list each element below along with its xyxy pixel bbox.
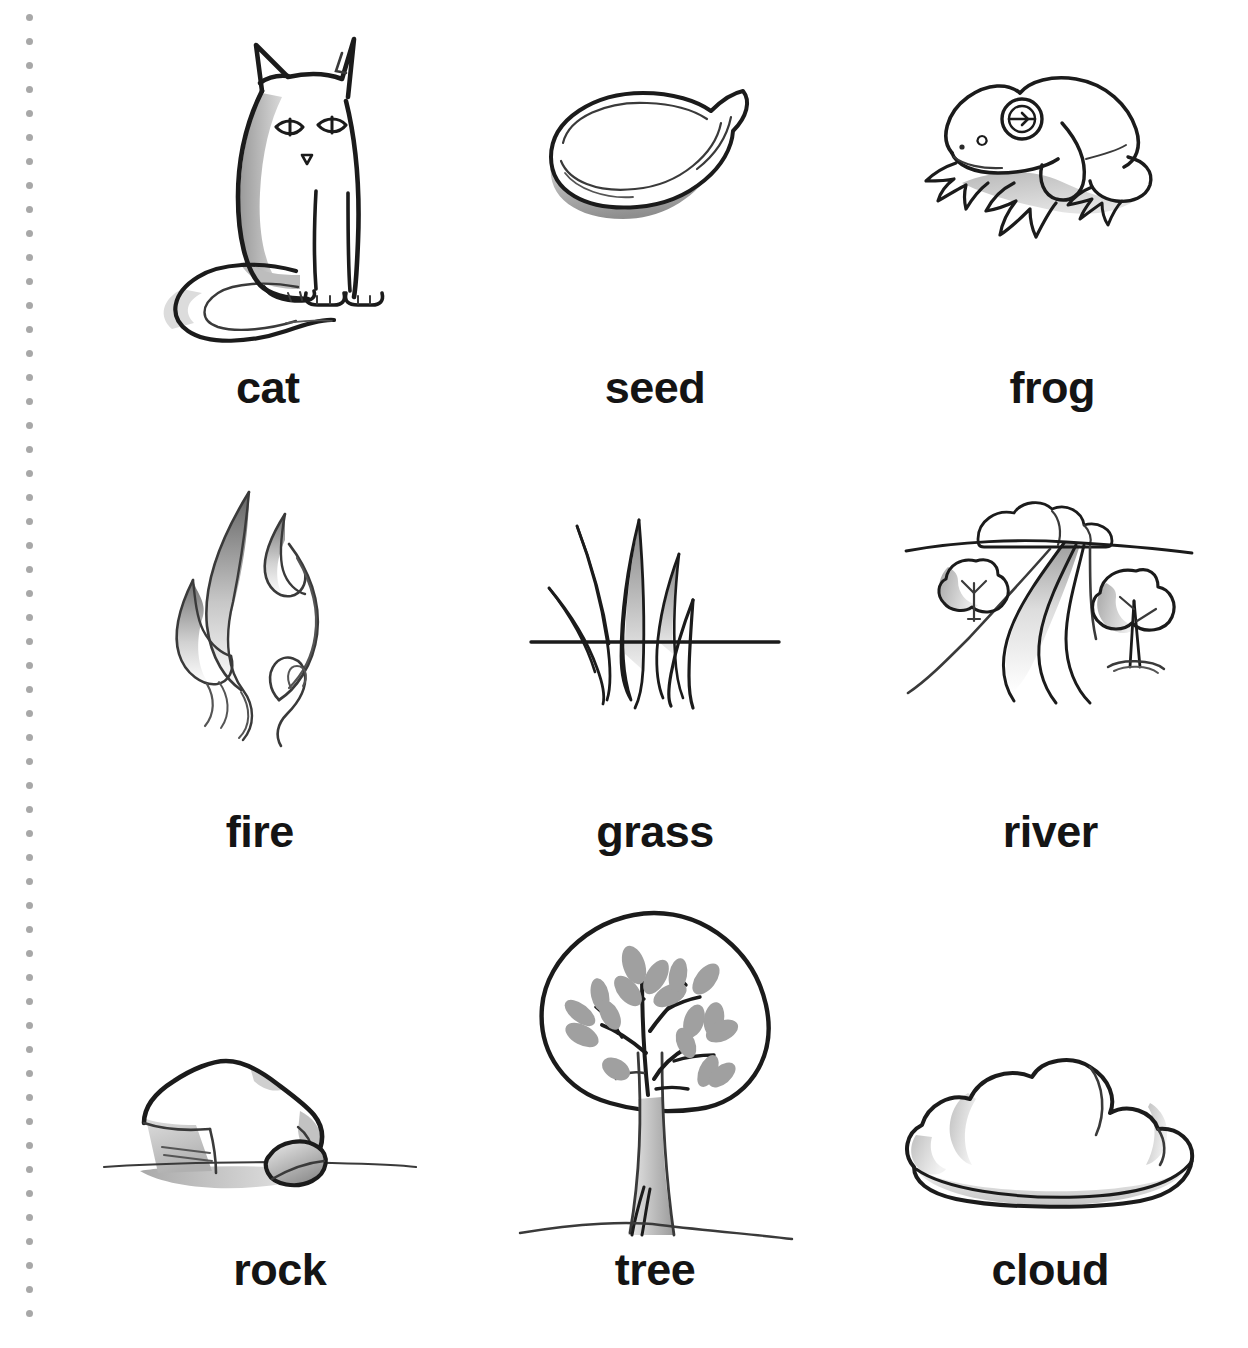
margin-dot [26,590,33,597]
card-label-fire: fire [226,809,294,854]
grass-illustration [457,452,852,805]
margin-dot [26,1166,33,1173]
fire-illustration [62,452,457,805]
margin-dot [26,14,33,21]
margin-dot [26,182,33,189]
card-label-tree: tree [615,1247,696,1292]
margin-dot [26,830,33,837]
margin-dot [26,158,33,165]
margin-dot [26,1190,33,1197]
margin-dot [26,206,33,213]
margin-dot [26,422,33,429]
margin-dot [26,974,33,981]
card-frog[interactable]: frog [853,0,1248,452]
margin-dot [26,494,33,501]
seed-illustration [457,0,852,361]
margin-dot [26,1310,33,1317]
rock-illustration [62,900,457,1243]
margin-dot [26,662,33,669]
picture-word-grid: cat [62,0,1248,1348]
tree-illustration [457,900,852,1243]
margin-dot [26,110,33,117]
card-label-river: river [1003,809,1098,854]
margin-dot [26,854,33,861]
cloud-illustration [853,900,1248,1243]
card-label-cloud: cloud [992,1247,1110,1292]
card-fire[interactable]: fire [62,452,457,900]
margin-dot [26,302,33,309]
margin-dot [26,254,33,261]
card-label-seed: seed [605,365,706,410]
margin-dot [26,470,33,477]
margin-dot [26,1118,33,1125]
margin-dot [26,1046,33,1053]
margin-dot [26,1022,33,1029]
frog-illustration [853,0,1248,361]
margin-dot [26,38,33,45]
margin-dot-strip [0,0,62,1348]
margin-dot [26,710,33,717]
margin-dot [26,374,33,381]
river-illustration [853,452,1248,805]
margin-dot [26,950,33,957]
card-label-cat: cat [236,365,300,410]
card-cloud[interactable]: cloud [853,900,1248,1348]
margin-dot [26,326,33,333]
margin-dot [26,686,33,693]
margin-dot [26,518,33,525]
margin-dot [26,734,33,741]
margin-dot [26,878,33,885]
card-label-grass: grass [596,809,714,854]
margin-dot [26,1094,33,1101]
margin-dot [26,278,33,285]
margin-dot [26,926,33,933]
card-label-rock: rock [233,1247,326,1292]
margin-dot [26,446,33,453]
margin-dot [26,62,33,69]
margin-dot [26,614,33,621]
margin-dot [26,638,33,645]
cat-illustration [62,0,457,361]
margin-dot [26,542,33,549]
margin-dot [26,230,33,237]
margin-dot [26,1238,33,1245]
margin-dot [26,350,33,357]
card-tree[interactable]: tree [457,900,852,1348]
margin-dot [26,1262,33,1269]
worksheet-page: cat [0,0,1248,1348]
margin-dot [26,806,33,813]
card-rock[interactable]: rock [62,900,457,1348]
card-river[interactable]: river [853,452,1248,900]
card-label-frog: frog [1010,365,1095,410]
margin-dot [26,134,33,141]
margin-dot [26,566,33,573]
margin-dot [26,998,33,1005]
margin-dot [26,902,33,909]
margin-dot [26,1286,33,1293]
margin-dot [26,758,33,765]
margin-dot [26,1214,33,1221]
card-seed[interactable]: seed [457,0,852,452]
margin-dot [26,86,33,93]
margin-dot [26,1142,33,1149]
margin-dot [26,1070,33,1077]
margin-dot [26,398,33,405]
margin-dot [26,782,33,789]
card-cat[interactable]: cat [62,0,457,452]
card-grass[interactable]: grass [457,452,852,900]
